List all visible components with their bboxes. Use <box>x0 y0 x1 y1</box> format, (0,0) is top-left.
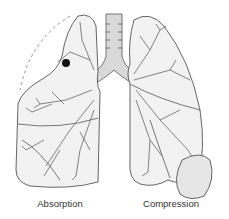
absorption-label: Absorption <box>20 198 100 209</box>
compression-label: Compression <box>126 198 216 209</box>
bronchial-obstruction <box>62 59 70 67</box>
pleural-effusion <box>176 155 212 199</box>
lungs-diagram <box>0 0 229 219</box>
right-lung-compression <box>128 16 212 198</box>
left-lung-absorption <box>16 15 100 187</box>
